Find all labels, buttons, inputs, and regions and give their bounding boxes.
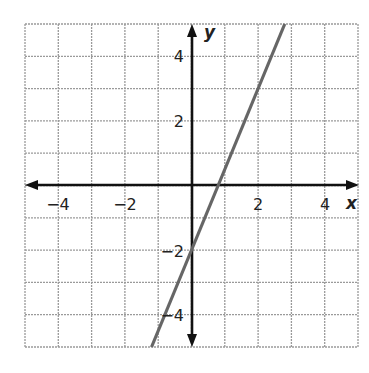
y-tick-label: −4 (160, 306, 184, 325)
y-axis-up-arrow-icon (187, 24, 197, 37)
x-tick-label: 4 (320, 195, 330, 214)
x-axis-label: x (345, 193, 358, 213)
x-axis-left-arrow-icon (25, 180, 38, 190)
x-tick-label: −2 (113, 195, 137, 214)
x-tick-label: −4 (46, 195, 70, 214)
x-axis-right-arrow-icon (346, 180, 359, 190)
y-tick-label: 4 (174, 47, 184, 66)
y-tick-label: 2 (174, 112, 184, 131)
coordinate-plane: −4 −2 2 4 4 2 −2 −4 x y (0, 0, 369, 373)
y-axis-down-arrow-icon (187, 334, 197, 347)
y-axis-label: y (204, 22, 216, 42)
x-tick-label: 2 (253, 195, 263, 214)
y-tick-label: −2 (160, 242, 184, 261)
